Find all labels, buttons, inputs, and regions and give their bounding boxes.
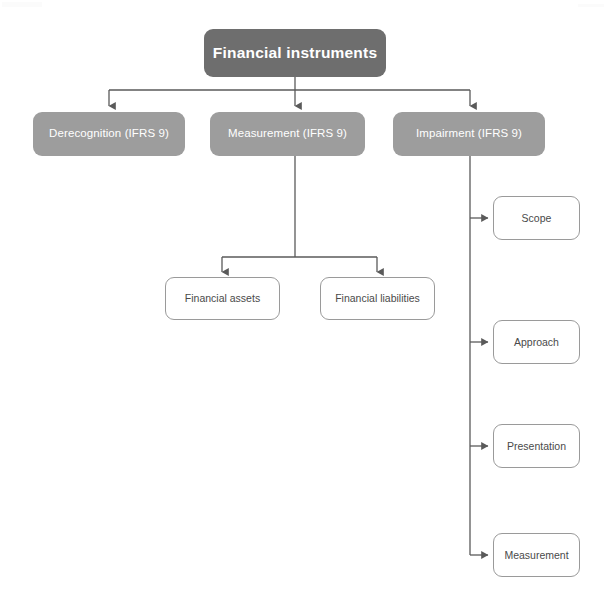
- node-scope[interactable]: Scope: [493, 196, 580, 240]
- node-approach[interactable]: Approach: [493, 320, 580, 364]
- connector-layer: [0, 0, 614, 596]
- node-derecognition[interactable]: Derecognition (IFRS 9): [33, 112, 185, 156]
- node-presentation[interactable]: Presentation: [493, 424, 580, 468]
- node-measurement[interactable]: Measurement (IFRS 9): [210, 112, 365, 156]
- node-impairment[interactable]: Impairment (IFRS 9): [393, 112, 545, 156]
- node-financial-instruments[interactable]: Financial instruments: [204, 29, 386, 77]
- node-measurement-leaf[interactable]: Measurement: [493, 533, 580, 577]
- diagram-canvas: Financial instruments Derecognition (IFR…: [0, 0, 614, 596]
- node-financial-assets[interactable]: Financial assets: [165, 277, 280, 320]
- node-financial-liabilities[interactable]: Financial liabilities: [320, 277, 435, 320]
